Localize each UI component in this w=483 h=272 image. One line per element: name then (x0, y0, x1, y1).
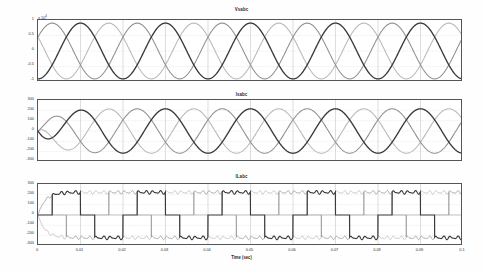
xtick-4: 0.04 (197, 248, 217, 252)
axes-vsabc (37, 19, 462, 81)
x-axis-label: Time (sec) (0, 255, 483, 261)
matlab-figure-window: Vsabc x 104 1 0.5 0 -0.5 -1 (0, 0, 483, 272)
waveform-canvas-isabc (38, 100, 462, 161)
ytick-isabc-6: -300 (10, 157, 34, 161)
axes-isabc (37, 99, 462, 161)
waveform-canvas-ilabc (38, 184, 462, 245)
xtick-7: 0.07 (325, 248, 345, 252)
ytick-ilabc-5: -200 (10, 231, 34, 235)
xtick-8: 0.08 (367, 248, 387, 252)
subplot-isabc: Isabc 300 200 100 0 -100 -200 -300 (0, 90, 483, 178)
waveform-canvas-vsabc (38, 20, 462, 81)
ytick-isabc-4: -100 (10, 137, 34, 141)
ytick-ilabc-1: 200 (10, 191, 34, 195)
xtick-6: 0.06 (282, 248, 302, 252)
ytick-vsabc-1: 0.5 (12, 32, 34, 36)
xtick-9: 0.09 (410, 248, 430, 252)
subplot-vsabc: Vsabc x 104 1 0.5 0 -0.5 -1 (0, 0, 483, 90)
axes-ilabc (37, 183, 462, 245)
xtick-1: 0.01 (70, 248, 90, 252)
plot-title-ilabc: ILabc (0, 174, 483, 181)
ytick-vsabc-0: 1 (12, 17, 34, 21)
ytick-ilabc-3: 0 (10, 211, 34, 215)
xtick-10: 0.1 (452, 248, 472, 252)
gridlines-vertical-vsabc (81, 20, 421, 81)
ytick-vsabc-3: -0.5 (12, 62, 34, 66)
ytick-vsabc-2: 0 (12, 47, 34, 51)
ytick-ilabc-2: 100 (10, 201, 34, 205)
ytick-isabc-5: -200 (10, 147, 34, 151)
ytick-isabc-3: 0 (10, 127, 34, 131)
ytick-ilabc-4: -100 (10, 221, 34, 225)
xtick-5: 0.05 (240, 248, 260, 252)
exp-power: 4 (45, 14, 47, 18)
ytick-isabc-1: 200 (10, 107, 34, 111)
xtick-0: 0 (27, 248, 47, 252)
xtick-2: 0.02 (112, 248, 132, 252)
ytick-isabc-2: 100 (10, 117, 34, 121)
subplot-ilabc: ILabc 300 200 100 0 -100 -200 -300 (0, 178, 483, 272)
ytick-ilabc-0: 300 (10, 181, 34, 185)
ytick-isabc-0: 300 (10, 97, 34, 101)
plot-title-isabc: Isabc (0, 92, 483, 99)
ytick-ilabc-6: -300 (10, 241, 34, 245)
xtick-3: 0.03 (155, 248, 175, 252)
sixstep-traces-ilabc (38, 191, 462, 240)
ytick-vsabc-4: -1 (12, 77, 34, 81)
plot-title-vsabc: Vsabc (0, 7, 483, 14)
